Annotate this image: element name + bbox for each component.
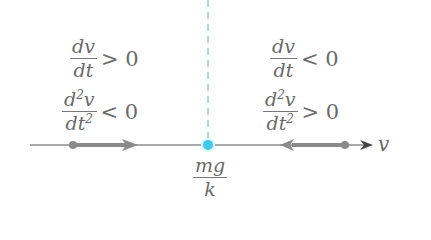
inequality: > 0 <box>101 47 139 71</box>
right-first-derivative: dvdt < 0 <box>270 36 339 81</box>
left-first-derivative: dvdt > 0 <box>70 36 139 81</box>
fraction-denominator: dt <box>74 59 94 81</box>
num-superscript: 2 <box>277 88 285 102</box>
inequality: < 0 <box>101 100 139 124</box>
right-second-derivative: d2v dt2 > 0 <box>263 89 339 134</box>
fraction-numerator: mg <box>193 155 227 178</box>
den-superscript: 2 <box>85 112 93 126</box>
fraction-denominator: k <box>204 178 216 200</box>
num-suffix: v <box>84 88 95 110</box>
den-superscript: 2 <box>286 112 294 126</box>
fraction-numerator: d2v <box>62 89 97 112</box>
num-superscript: 2 <box>76 88 84 102</box>
v-axis-label: v <box>378 132 389 156</box>
fraction-denominator: dt2 <box>66 112 93 134</box>
equilibrium-label: mgk <box>193 155 227 200</box>
left-start-point <box>69 141 77 149</box>
den-prefix: dt <box>267 112 287 134</box>
fraction-numerator: d2v <box>263 89 298 112</box>
fraction-denominator: dt2 <box>267 112 294 134</box>
equilibrium-point <box>203 140 213 150</box>
fraction-numerator: dv <box>70 36 97 59</box>
fraction-denominator: dt <box>274 59 294 81</box>
num-prefix: d <box>265 88 277 110</box>
inequality: < 0 <box>301 47 339 71</box>
left-second-derivative: d2v dt2 < 0 <box>62 89 138 134</box>
right-start-point <box>341 141 349 149</box>
num-suffix: v <box>285 88 296 110</box>
inequality: > 0 <box>302 100 340 124</box>
den-prefix: dt <box>66 112 86 134</box>
fraction-numerator: dv <box>270 36 297 59</box>
num-prefix: d <box>64 88 76 110</box>
